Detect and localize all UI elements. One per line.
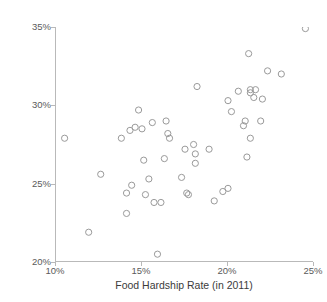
x-tick-label: 15% xyxy=(121,265,161,276)
x-tick-mark xyxy=(313,262,314,266)
data-point xyxy=(62,135,68,141)
y-tick-mark xyxy=(51,27,55,28)
data-point xyxy=(206,146,212,152)
x-axis-title: Food Hardship Rate (in 2011) xyxy=(55,279,313,291)
data-point xyxy=(302,27,308,32)
data-point xyxy=(98,171,104,177)
data-point xyxy=(146,176,152,182)
x-tick-mark xyxy=(227,262,228,266)
data-point xyxy=(194,83,200,89)
data-point xyxy=(142,192,148,198)
plot-area xyxy=(55,27,313,262)
y-tick-label: 30% xyxy=(21,99,51,110)
data-point xyxy=(225,98,231,104)
data-point xyxy=(264,68,270,74)
data-point xyxy=(259,96,265,102)
data-point xyxy=(161,156,167,162)
data-point xyxy=(192,151,198,157)
y-tick-mark xyxy=(51,184,55,185)
data-point xyxy=(228,109,234,115)
x-tick-label: 25% xyxy=(293,265,327,276)
x-tick-label: 10% xyxy=(35,265,75,276)
y-tick-mark xyxy=(51,105,55,106)
data-point xyxy=(178,174,184,180)
data-point xyxy=(86,229,92,235)
data-point xyxy=(123,210,129,216)
x-tick-mark xyxy=(141,262,142,266)
x-axis-tick-labels: 10%15%20%25% xyxy=(0,265,322,279)
data-point xyxy=(151,199,157,205)
data-point xyxy=(123,190,129,196)
data-point xyxy=(184,190,190,196)
data-point xyxy=(244,154,250,160)
data-point xyxy=(278,71,284,77)
data-point xyxy=(225,185,231,191)
data-point xyxy=(185,192,191,198)
y-tick-label: 35% xyxy=(21,21,51,32)
data-point xyxy=(158,199,164,205)
data-point xyxy=(132,124,138,130)
data-point xyxy=(139,126,145,132)
data-point xyxy=(246,51,252,57)
data-point xyxy=(149,119,155,125)
data-point xyxy=(211,198,217,204)
data-point xyxy=(129,182,135,188)
data-point xyxy=(258,118,264,124)
data-point xyxy=(192,160,198,166)
data-point xyxy=(154,251,160,257)
data-point xyxy=(235,88,241,94)
data-point xyxy=(182,146,188,152)
data-point xyxy=(251,94,257,100)
data-point xyxy=(118,135,124,141)
data-point xyxy=(135,107,141,113)
y-tick-label: 25% xyxy=(21,178,51,189)
x-tick-label: 20% xyxy=(207,265,247,276)
data-point xyxy=(247,135,253,141)
data-point xyxy=(141,157,147,163)
data-point xyxy=(163,118,169,124)
data-points-layer xyxy=(56,27,314,262)
y-axis-tick-labels: 20%25%30%35% xyxy=(18,0,51,302)
x-tick-mark xyxy=(55,262,56,266)
data-point xyxy=(191,141,197,147)
